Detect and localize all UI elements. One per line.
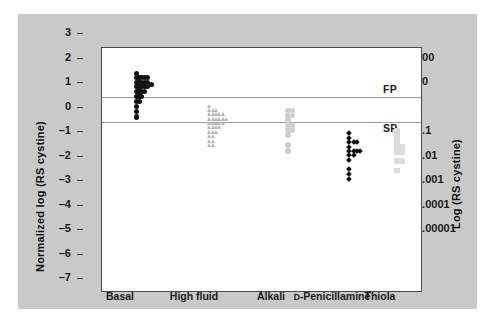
y-tick-left [77,278,83,279]
y-axis-title-right: Log (RS cystine) [450,139,462,229]
y-tick-label-left: –2 [43,149,71,161]
y-tick-left [77,156,83,157]
figure-root: Normalized log (RS cystine) Log (RS cyst… [0,0,496,325]
y-tick-label-left: –3 [43,173,71,185]
y-tick-left [77,33,83,34]
chart-panel: Normalized log (RS cystine) Log (RS cyst… [18,14,477,309]
y-tick-left [77,229,83,230]
y-tick-left [77,58,83,59]
y-tick-label-left: 1 [43,75,71,87]
y-tick-label-left: –7 [43,271,71,283]
series-thiola [102,48,421,291]
data-point [399,158,405,164]
y-tick-left [77,107,83,108]
y-tick-label-left: –1 [43,124,71,136]
plot-area: FPSP [101,47,422,292]
y-tick-label-left: –6 [43,247,71,259]
y-tick-label-left: 2 [43,51,71,63]
data-point [394,168,400,174]
y-tick-label-left: 0 [43,100,71,112]
y-tick-label-left: 3 [43,26,71,38]
label-prefix: D [294,292,300,302]
y-tick-label-left: –5 [43,222,71,234]
y-tick-left [77,254,83,255]
data-point [394,128,400,134]
y-tick-left [77,131,83,132]
y-tick-left [77,180,83,181]
y-tick-label-left: –4 [43,198,71,210]
y-tick-left [77,82,83,83]
data-point [399,149,405,155]
data-point [394,138,400,144]
y-tick-left [77,205,83,206]
